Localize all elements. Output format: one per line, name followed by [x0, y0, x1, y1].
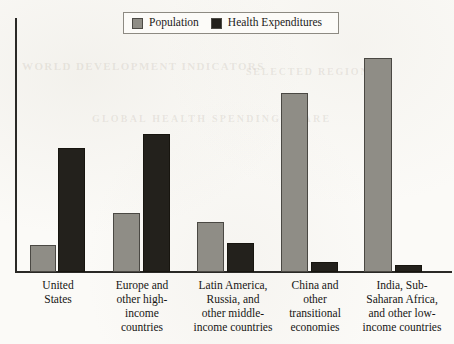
x-axis-category-label-0: United States	[18, 278, 98, 306]
bar-population-group-3	[281, 93, 308, 272]
bar-population-group-0	[30, 245, 56, 272]
x-axis-category-label-3: China and other transitional economies	[275, 278, 355, 334]
bar-chart-figure: WORLD DEVELOPMENT INDICATORS GLOBAL HEAL…	[0, 0, 454, 344]
plot-area: United StatesEurope and other high- inco…	[0, 0, 454, 344]
bar-health-group-3	[311, 262, 338, 272]
bar-population-group-1	[113, 213, 140, 272]
x-axis-category-label-1: Europe and other high- income countries	[100, 278, 184, 334]
bar-health-group-2	[227, 243, 254, 272]
x-axis-category-label-2: Latin America, Russia, and other middle-…	[185, 278, 281, 334]
x-axis-category-label-4: India, Sub- Saharan Africa, and other lo…	[354, 278, 450, 334]
bar-population-group-2	[197, 222, 224, 272]
bar-health-group-0	[58, 148, 85, 272]
bar-health-group-1	[143, 134, 170, 272]
bar-population-group-4	[364, 58, 392, 272]
bar-health-group-4	[395, 265, 422, 272]
y-axis-line	[15, 18, 17, 273]
